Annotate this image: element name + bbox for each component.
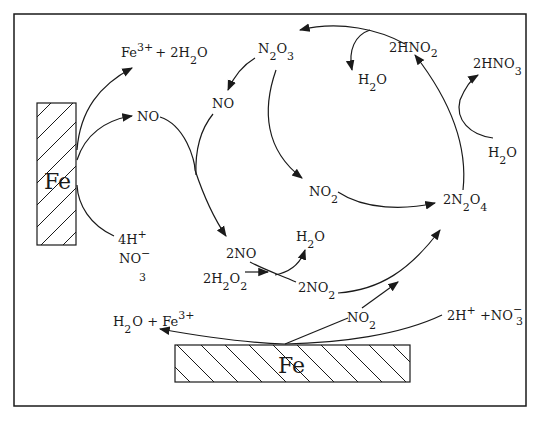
left-fe-label: Fe [44, 169, 71, 194]
label-no2-bottom: NO2 [347, 310, 376, 332]
label-no-mid: NO [212, 96, 234, 111]
arrow-to-h2o-small [275, 250, 305, 275]
reaction-arrows [77, 26, 493, 344]
label-h2o-fe3-bottom: H2O + Fe3+ [113, 309, 194, 336]
arrow-h2o-to-hno3 [459, 75, 493, 138]
label-no-left: NO [137, 109, 159, 124]
label-n2o3: N2O3 [258, 41, 294, 63]
arrow-to-h2o-top [351, 30, 370, 70]
arrow-fe-to-h2o-fe3 [160, 329, 285, 344]
bottom-fe-electrode: Fe [175, 345, 410, 382]
species-labels: Fe3++ 2H2O NO 4H+ NO− 3 N2O3 NO H2O 2HNO… [113, 40, 523, 336]
arrow-no2-to-n2o4 [338, 192, 435, 207]
arrow-fe-to-fe3 [77, 68, 132, 150]
arrow-no2-bottom-up [362, 282, 398, 308]
arrow-fe-to-no [77, 116, 132, 160]
bottom-fe-label: Fe [278, 353, 305, 378]
arrow-2no2-to-n2o4 [338, 230, 440, 293]
label-2no2: 2NO2 [298, 280, 335, 302]
label-2h2o2: 2H2O2 [203, 271, 247, 293]
label-h2o-right: H2O [488, 145, 517, 167]
arrow-no-to-2no [160, 117, 226, 236]
label-2hno3: 2HNO3 [473, 56, 522, 78]
left-fe-electrode: Fe [37, 103, 76, 245]
line-no-mid [196, 114, 213, 175]
arrow-n2o3-to-no2 [268, 70, 302, 178]
label-h2o-top: H2O [358, 72, 387, 94]
label-2hno2: 2HNO2 [389, 40, 438, 60]
line-h-no3-to-fe [77, 185, 114, 236]
label-fe3-2h2o: Fe3++ 2H2O [121, 41, 208, 67]
label-no3-left-sub: 3 [139, 271, 146, 284]
label-h2o-small: H2O [296, 229, 325, 251]
label-2n2o4: 2N2O4 [443, 192, 487, 214]
label-2no: 2NO [226, 246, 256, 261]
label-no3-left: NO− [119, 247, 150, 266]
arrow-n2o3-to-no [228, 58, 255, 90]
arrow-n2o4-to-hno2 [415, 55, 464, 190]
line-fe-to-no2 [285, 318, 348, 344]
nitrate-reduction-cycle-diagram: Fe Fe [0, 0, 537, 424]
label-no2-mid: NO2 [309, 184, 338, 206]
label-4h: 4H+ [118, 228, 147, 247]
label-2h-no3-right: 2H+ +NO−3 [447, 303, 523, 328]
